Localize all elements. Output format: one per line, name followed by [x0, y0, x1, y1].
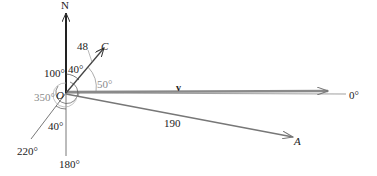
magnitude-48-label: 48	[77, 40, 89, 52]
angle-180-label: 180°	[59, 158, 80, 170]
angle-350-label: 350°	[34, 91, 55, 103]
zero-degree-line	[66, 93, 346, 94]
angle-40-bottom-label: 40°	[48, 120, 63, 132]
bearing-diagram: N 48 C 100° 40° 50° v 0° 350° O 190 A 40…	[0, 0, 377, 176]
origin-label: O	[56, 89, 64, 101]
angle-0-label: 0°	[349, 89, 359, 101]
v-label: v	[176, 82, 181, 93]
magnitude-48-leader	[88, 50, 92, 62]
north-label: N	[61, 0, 69, 11]
angle-50-label: 50°	[97, 78, 112, 90]
angle-100-label: 100°	[44, 67, 65, 79]
arc-50	[88, 67, 96, 92]
c-label: C	[101, 40, 109, 52]
a-vector	[66, 94, 293, 137]
angle-40-top-label: 40°	[68, 63, 83, 75]
magnitude-190-label: 190	[164, 117, 181, 129]
v-vector	[66, 91, 328, 92]
a-label: A	[293, 135, 301, 147]
angle-220-label: 220°	[17, 145, 38, 157]
